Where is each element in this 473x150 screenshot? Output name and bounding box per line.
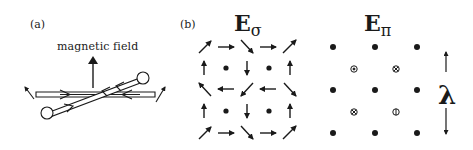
field-out-icon bbox=[351, 66, 357, 72]
field-in-icon bbox=[351, 109, 357, 115]
e-pi-dot-lattice bbox=[330, 44, 420, 136]
magnetic-field-arrow-icon bbox=[88, 56, 98, 88]
diagram-canvas bbox=[0, 0, 473, 150]
field-out-icon bbox=[393, 109, 399, 115]
field-in-icon bbox=[393, 66, 399, 72]
crossing-strings-icon bbox=[25, 72, 165, 119]
e-sigma-field-grid bbox=[199, 40, 296, 139]
